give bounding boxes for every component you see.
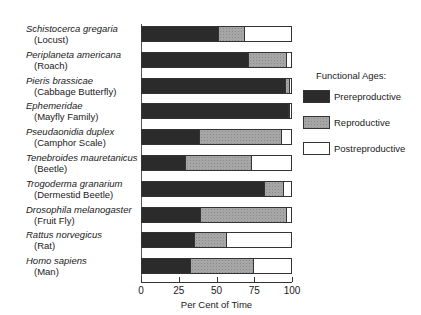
- legend-swatch-postreproductive: [303, 142, 330, 155]
- bar-segment-postreproductive: [245, 27, 291, 41]
- common-name: (Fruit Fly): [26, 215, 132, 226]
- bar-segment-prereproductive: [142, 233, 194, 247]
- legend-title: Functional Ages:: [316, 70, 386, 81]
- bar-segment-prereproductive: [142, 53, 248, 67]
- bar-segment-postreproductive: [252, 156, 291, 170]
- bar-segment-prereproductive: [142, 208, 200, 222]
- category-label: Ephemeridae(Mayfly Family): [26, 100, 98, 122]
- x-axis-line: [141, 282, 292, 283]
- bar: [141, 258, 292, 274]
- x-tick-label: 100: [277, 285, 307, 296]
- bar-segment-prereproductive: [142, 27, 218, 41]
- bar: [141, 129, 292, 145]
- bar-segment-prereproductive: [142, 156, 185, 170]
- bar-segment-reproductive: [218, 27, 245, 41]
- scientific-name: Pieris brassicae: [26, 75, 116, 86]
- scientific-name: Ephemeridae: [26, 100, 98, 111]
- bar-segment-prereproductive: [142, 182, 264, 196]
- scientific-name: Trogoderma granarium: [26, 178, 122, 189]
- bar: [141, 207, 292, 223]
- common-name: (Dermestid Beetle): [26, 189, 122, 200]
- bar-segment-reproductive: [194, 233, 227, 247]
- common-name: (Cabbage Butterfly): [26, 86, 116, 97]
- legend-swatch-reproductive: [303, 116, 330, 129]
- x-tick: [292, 277, 293, 282]
- scientific-name: Tenebroides mauretanicus: [26, 152, 138, 163]
- bar: [141, 155, 292, 171]
- bar: [141, 232, 292, 248]
- x-tick: [254, 277, 255, 282]
- bar-segment-postreproductive: [254, 259, 291, 273]
- common-name: (Rat): [26, 240, 102, 251]
- x-tick-label: 75: [239, 285, 269, 296]
- bar-segment-reproductive: [264, 182, 283, 196]
- x-tick-label: 50: [202, 285, 232, 296]
- bar-segment-reproductive: [248, 53, 287, 67]
- bar-segment-postreproductive: [290, 79, 291, 93]
- category-label: Homo sapiens(Man): [26, 255, 87, 277]
- category-label: Tenebroides mauretanicus(Beetle): [26, 152, 138, 174]
- bar: [141, 181, 292, 197]
- bar-segment-reproductive: [200, 208, 286, 222]
- bar-segment-postreproductive: [290, 104, 291, 118]
- common-name: (Locust): [26, 34, 118, 45]
- bar-segment-reproductive: [185, 156, 252, 170]
- x-tick-label: 25: [164, 285, 194, 296]
- bar-segment-postreproductive: [227, 233, 291, 247]
- category-label: Periplaneta americana(Roach): [26, 49, 121, 71]
- legend-swatch-prereproductive: [303, 90, 330, 103]
- bar-segment-postreproductive: [284, 182, 291, 196]
- category-label: Trogoderma granarium(Dermestid Beetle): [26, 178, 122, 200]
- scientific-name: Schistocerca gregaria: [26, 23, 118, 34]
- scientific-name: Rattus norvegicus: [26, 229, 102, 240]
- bar-segment-prereproductive: [142, 104, 288, 118]
- category-label: Drosophila melanogaster(Fruit Fly): [26, 204, 132, 226]
- common-name: (Man): [26, 266, 87, 277]
- x-tick: [179, 277, 180, 282]
- category-label: Pseudaonidia duplex(Camphor Scale): [26, 126, 114, 148]
- scientific-name: Pseudaonidia duplex: [26, 126, 114, 137]
- bar-segment-postreproductive: [287, 53, 291, 67]
- bar-segment-prereproductive: [142, 259, 190, 273]
- bar: [141, 103, 292, 119]
- x-tick-label: 0: [126, 285, 156, 296]
- bar-segment-prereproductive: [142, 130, 199, 144]
- x-tick: [141, 277, 142, 282]
- legend-item-reproductive: Reproductive: [303, 116, 390, 129]
- common-name: (Camphor Scale): [26, 137, 114, 148]
- bar-segment-postreproductive: [282, 130, 291, 144]
- bar-segment-reproductive: [190, 259, 254, 273]
- bar: [141, 78, 292, 94]
- bar: [141, 26, 292, 42]
- bar-segment-reproductive: [199, 130, 282, 144]
- legend-item-prereproductive: Prereproductive: [303, 90, 401, 103]
- scientific-name: Homo sapiens: [26, 255, 87, 266]
- legend-item-postreproductive: Postreproductive: [303, 142, 405, 155]
- category-label: Pieris brassicae(Cabbage Butterfly): [26, 75, 116, 97]
- common-name: (Roach): [26, 60, 121, 71]
- common-name: (Beetle): [26, 163, 138, 174]
- bar-segment-postreproductive: [287, 208, 291, 222]
- scientific-name: Periplaneta americana: [26, 49, 121, 60]
- x-tick: [217, 277, 218, 282]
- common-name: (Mayfly Family): [26, 111, 98, 122]
- bar: [141, 52, 292, 68]
- x-axis-label: Per Cent of Time: [141, 299, 292, 310]
- category-label: Schistocerca gregaria(Locust): [26, 23, 118, 45]
- category-label: Rattus norvegicus(Rat): [26, 229, 102, 251]
- scientific-name: Drosophila melanogaster: [26, 204, 132, 215]
- bar-segment-prereproductive: [142, 79, 285, 93]
